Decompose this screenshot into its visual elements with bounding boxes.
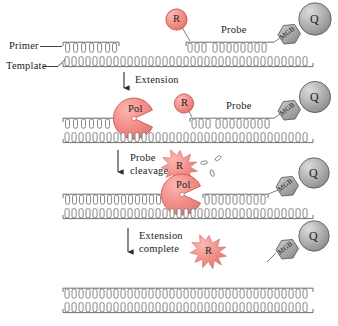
template-strand [63, 57, 313, 67]
probe-label-panel1: Probe [221, 24, 247, 35]
figure-canvas: Primer Template Probe Probe R R R R Q Q … [0, 0, 338, 326]
quencher-label-panel1: Q [310, 12, 319, 27]
step-label-extension-complete: Extension complete [139, 230, 183, 255]
reporter-label-panel4: R [205, 245, 212, 256]
panel-extension [63, 81, 331, 142]
step-label-probe-cleavage: Probe cleavage [130, 152, 168, 177]
primer-strand [63, 194, 165, 204]
quencher-label-panel4: Q [309, 229, 318, 244]
panel-complete [63, 221, 329, 313]
template-strand [63, 209, 313, 219]
polymerase-label-panel2: Pol [128, 103, 143, 114]
mgb-linker [274, 38, 280, 42]
mgb-linker [267, 253, 276, 262]
step-label-extension: Extension [135, 74, 179, 85]
probe-label-panel2: Probe [226, 100, 252, 111]
template-strand [63, 133, 313, 143]
primer-strand [63, 118, 116, 128]
primer-label: Primer [9, 40, 39, 51]
quencher-label-panel2: Q [310, 90, 319, 105]
step-label-line-2: cleavage [130, 165, 168, 178]
pcr-probe-diagram [0, 0, 338, 326]
step-label-line-1: Probe [130, 152, 168, 165]
primer-strand [63, 42, 119, 52]
step-label-line-2: complete [139, 243, 183, 256]
cleaved-nucleotides [201, 155, 222, 177]
template-label: Template [6, 60, 47, 71]
template-strand [63, 303, 313, 313]
mgb-linker [274, 114, 280, 118]
probe-strand [186, 42, 274, 52]
step-label-line-1: Extension [139, 230, 183, 243]
polymerase-label-panel3: Pol [176, 179, 191, 190]
reporter-label-panel2: R [181, 97, 188, 108]
probe-strand [190, 118, 274, 128]
reporter-label-panel3: R [176, 160, 183, 171]
probe-strand [203, 194, 268, 204]
reporter-label-panel1: R [173, 13, 180, 24]
extended-strand [63, 288, 313, 298]
quencher-label-panel3: Q [309, 166, 318, 181]
mgb-linker [268, 190, 278, 194]
